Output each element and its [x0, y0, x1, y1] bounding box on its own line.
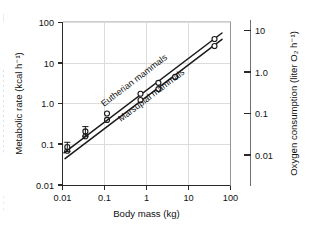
y-tick-label: 0.1 [41, 140, 54, 150]
y2-tick-label: 10 [255, 26, 265, 36]
y-tick-label: 10 [44, 59, 54, 69]
y2-tick-label: 0.1 [255, 109, 268, 119]
x-tick-label: 0.1 [98, 193, 111, 203]
y-tick-label: 100 [39, 18, 54, 28]
data-point [212, 37, 217, 42]
x-tick-label: 100 [223, 193, 238, 203]
data-point [212, 44, 217, 49]
y2-tick-label: 0.01 [255, 151, 273, 161]
figure-container: Eutherian mammals Marsupial mammals 100 … [0, 0, 315, 235]
y2-tick-label: 1.0 [255, 68, 268, 78]
y-tick-label: 0.01 [36, 181, 54, 191]
y-tick-label: 1.0 [41, 99, 54, 109]
y2-axis-title: Oxygen consumption (liter O₂ h⁻¹) [288, 31, 299, 176]
x-axis-title: Body mass (kg) [113, 208, 180, 219]
x-tick-label: 0.01 [54, 193, 72, 203]
y-axis-title: Metabolic rate (kcal h⁻¹) [13, 52, 24, 155]
x-tick-label: 1 [144, 193, 149, 203]
x-tick-label: 10 [183, 193, 193, 203]
data-point [105, 111, 110, 116]
metabolic-rate-log-log-chart: Eutherian mammals Marsupial mammals 100 … [0, 0, 315, 235]
